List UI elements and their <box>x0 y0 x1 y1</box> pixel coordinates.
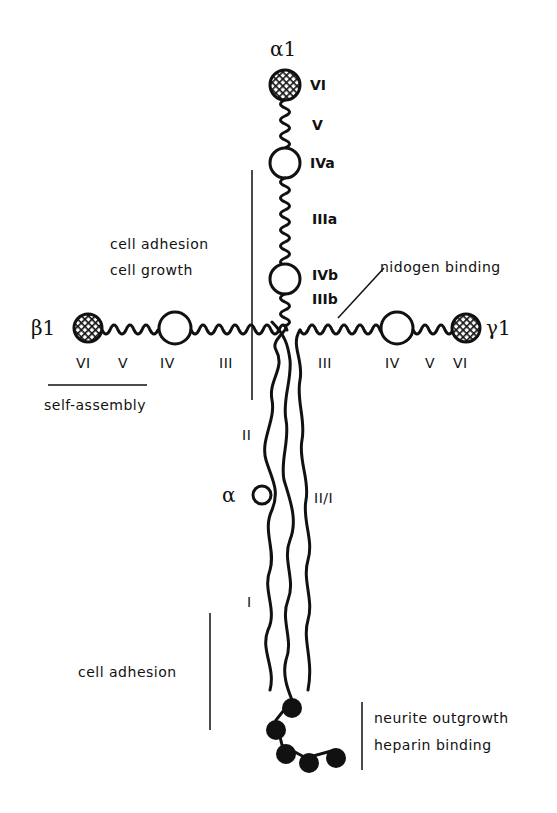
alpha1-label-IIIb: IIIb <box>312 291 338 307</box>
gamma1-domain-IV-globule <box>381 312 413 344</box>
alpha1-domain-IVa-globule <box>270 148 300 178</box>
long-arm-label-I: I <box>247 594 252 610</box>
G-domain-globule-2 <box>266 720 286 740</box>
beta1-label-IV: IV <box>160 355 175 371</box>
annotation-cell-growth: cell growth <box>110 262 193 278</box>
gamma1-label-IV: IV <box>385 355 400 371</box>
long-arm-label-II-I: II/I <box>314 490 333 506</box>
annotation-heparin-binding: heparin binding <box>374 737 492 753</box>
laminin-diagram: α1 β1 γ1 VI V IVa IIIa IVb IIIb VI V IV … <box>0 0 557 813</box>
gamma1-domain-V-rod <box>413 325 453 334</box>
gamma1-domain-VI-globule <box>452 314 480 342</box>
G-domain-globule-1 <box>282 698 302 718</box>
beta1-domain-IV-globule <box>159 312 191 344</box>
G-domain-globule-4 <box>299 753 319 773</box>
alpha1-domain-IIIb-rod <box>281 294 290 326</box>
beta1-domain-V-rod <box>102 325 158 334</box>
gamma1-short-arm <box>300 312 480 344</box>
long-arm-coiled-coil <box>265 322 310 700</box>
alpha1-label-VI: VI <box>310 77 326 93</box>
alpha1-domain-IVb-globule <box>270 264 300 294</box>
nidogen-pointer-line <box>338 268 384 318</box>
gamma1-label-III: III <box>318 355 332 371</box>
beta1-domain-VI-globule <box>74 314 102 342</box>
beta1-short-arm <box>74 312 287 344</box>
gamma1-label-V: V <box>425 355 435 371</box>
beta1-label-VI: VI <box>76 355 91 371</box>
long-arm-strand-alpha <box>265 326 286 690</box>
alpha1-label-IVa: IVa <box>310 155 335 171</box>
annotation-cell-adhesion-upper: cell adhesion <box>110 236 209 252</box>
beta1-title: β1 <box>31 316 55 340</box>
alpha1-label-IIIa: IIIa <box>312 211 337 227</box>
beta1-domain-III-rod <box>191 325 287 334</box>
long-arm-strand-gamma <box>296 330 309 690</box>
annotation-cell-adhesion-lower: cell adhesion <box>78 664 177 680</box>
annotation-self-assembly: self-assembly <box>44 397 146 413</box>
gamma1-label-VI: VI <box>453 355 468 371</box>
annotation-neurite-outgrowth: neurite outgrowth <box>374 710 509 726</box>
beta1-label-III: III <box>219 355 233 371</box>
gamma1-title: γ1 <box>486 316 511 340</box>
alpha1-short-arm <box>270 70 300 326</box>
alpha1-domain-IIIa-rod <box>281 178 290 266</box>
gamma1-domain-III-rod <box>300 325 388 334</box>
annotation-nidogen-binding: nidogen binding <box>380 259 501 275</box>
G-domain-globule-3 <box>276 744 296 764</box>
alpha1-G-domain <box>266 698 346 773</box>
alpha1-domain-VI-globule <box>270 70 300 100</box>
long-arm-alpha-label: α <box>222 483 236 507</box>
alpha1-label-IVb: IVb <box>312 267 338 283</box>
alpha1-label-V: V <box>312 117 323 133</box>
alpha1-title: α1 <box>270 37 296 61</box>
G-domain-globule-5 <box>326 748 346 768</box>
beta1-label-V: V <box>118 355 128 371</box>
long-arm-label-II: II <box>242 427 251 443</box>
long-arm-alpha-knob <box>253 486 271 504</box>
